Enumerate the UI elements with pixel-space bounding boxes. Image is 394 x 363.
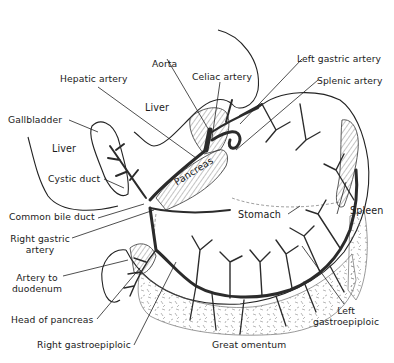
label-artery-to-duodenum-line1: Artery to <box>8 272 66 283</box>
label-left-gastroepiploic: Left gastroepiploic <box>306 305 386 327</box>
label-cystic-duct: Cystic duct <box>48 173 100 184</box>
label-common-bile-duct: Common bile duct <box>9 211 95 222</box>
label-hepatic-artery: Hepatic artery <box>60 73 127 84</box>
label-gallbladder: Gallbladder <box>8 114 62 125</box>
label-left-gastroepiploic-line1: Left <box>306 305 386 316</box>
label-stomach: Stomach <box>238 209 281 220</box>
label-artery-to-duodenum-line2: duodenum <box>8 283 66 294</box>
label-spleen: Spleen <box>350 205 383 216</box>
label-great-omentum: Great omentum <box>212 339 286 350</box>
right-gastric-artery-vessel <box>150 208 230 212</box>
label-head-of-pancreas: Head of pancreas <box>11 314 93 325</box>
label-artery-to-duodenum: Artery to duodenum <box>8 272 66 294</box>
label-celiac-artery: Celiac artery <box>192 71 252 82</box>
label-left-gastroepiploic-line2: gastroepiploic <box>306 316 386 327</box>
label-right-gastric-artery: Right gastric artery <box>8 233 72 255</box>
label-aorta: Aorta <box>152 58 177 69</box>
duodenum-outline <box>102 250 126 302</box>
label-left-gastric-artery: Left gastric artery <box>297 53 381 64</box>
label-right-gastric-artery-line1: Right gastric <box>8 233 72 244</box>
label-liver-upper: Liver <box>145 102 169 113</box>
label-liver-lower: Liver <box>52 143 76 154</box>
label-right-gastric-artery-line2: artery <box>8 244 72 255</box>
label-right-gastroepiploic: Right gastroepiploic <box>37 339 131 350</box>
pancreas-shape <box>156 150 228 210</box>
label-splenic-artery: Splenic artery <box>317 75 383 86</box>
